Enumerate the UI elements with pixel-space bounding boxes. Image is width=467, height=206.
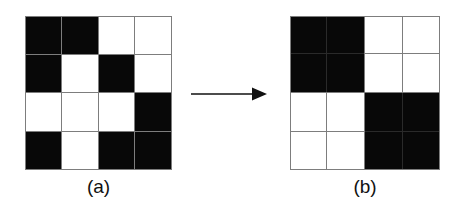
pixel-cell-r4-c1 xyxy=(25,132,62,171)
quadrant-top-left-subcell-4 xyxy=(327,54,364,92)
quadrant-top-right-subcell-4 xyxy=(403,54,441,92)
quadrant-bottom-left-subcell-2 xyxy=(327,93,364,132)
quadrant-bottom-right-subcell-1 xyxy=(365,93,403,132)
pixel-cell-r3-c4 xyxy=(135,93,172,132)
quadrant-bottom-right xyxy=(365,93,440,170)
quadrant-top-right-subcell-1 xyxy=(365,16,403,54)
pixel-cell-r3-c2 xyxy=(62,93,99,132)
quadrant-top-right-subcell-3 xyxy=(365,54,403,92)
pixel-cell-r2-c1 xyxy=(25,55,62,94)
pixel-cell-r3-c3 xyxy=(99,93,136,132)
quadrant-bottom-right-subcell-3 xyxy=(365,132,403,171)
right-arrow-icon xyxy=(190,82,268,106)
quadrant-bottom-left xyxy=(290,93,365,170)
quadrant-bottom-left-subcell-1 xyxy=(290,93,327,132)
pixel-cell-r3-c1 xyxy=(25,93,62,132)
quadrant-top-left xyxy=(290,16,365,93)
pixel-cell-r4-c3 xyxy=(99,132,136,171)
quadtree-grid-2x2 xyxy=(290,16,440,170)
pixel-cell-r1-c4 xyxy=(135,16,172,55)
quadrant-top-left-subcell-1 xyxy=(290,16,327,54)
quadrant-top-right-subcell-2 xyxy=(403,16,441,54)
pixel-cell-r4-c2 xyxy=(62,132,99,171)
quadrant-bottom-right-subcell-4 xyxy=(403,132,441,171)
quadrant-top-right xyxy=(365,16,440,93)
panel-b-quadtree-grid xyxy=(290,16,440,170)
quadrant-top-left-subcell-3 xyxy=(290,54,327,92)
figure-container: (a) (b) xyxy=(0,0,467,206)
panel-a-pixel-grid xyxy=(25,16,172,170)
pixel-cell-r4-c4 xyxy=(135,132,172,171)
quadrant-top-left-subcell-2 xyxy=(327,16,364,54)
pixel-grid-4x4 xyxy=(25,16,172,170)
caption-panel-a: (a) xyxy=(25,177,172,196)
caption-panel-b: (b) xyxy=(290,177,440,196)
quadrant-bottom-left-subcell-4 xyxy=(327,132,364,171)
right-arrow-svg xyxy=(190,82,268,106)
pixel-cell-r2-c3 xyxy=(99,55,136,94)
pixel-cell-r1-c1 xyxy=(25,16,62,55)
pixel-cell-r1-c2 xyxy=(62,16,99,55)
pixel-cell-r2-c4 xyxy=(135,55,172,94)
pixel-cell-r1-c3 xyxy=(99,16,136,55)
quadrant-bottom-right-subcell-2 xyxy=(403,93,441,132)
pixel-cell-r2-c2 xyxy=(62,55,99,94)
quadrant-bottom-left-subcell-3 xyxy=(290,132,327,171)
